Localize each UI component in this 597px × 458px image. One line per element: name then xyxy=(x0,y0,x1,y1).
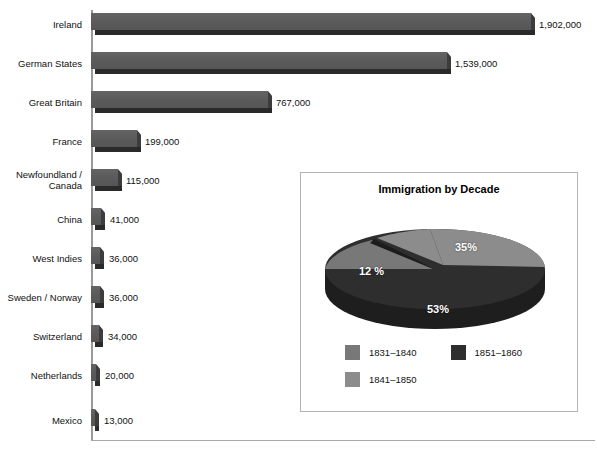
legend-swatch-icon xyxy=(345,345,360,360)
legend-label: 1841–1850 xyxy=(369,374,417,385)
bar-value-label: 20,000 xyxy=(105,370,134,381)
legend-row: 1841–1850 xyxy=(345,372,575,387)
bar-value-label: 115,000 xyxy=(126,175,160,186)
pie-chart-title: Immigration by Decade xyxy=(301,183,577,195)
pie-legend: 1831–1840 1851–1860 1841–1850 xyxy=(345,345,575,399)
bar-shadow xyxy=(95,381,100,386)
legend-label: 1831–1840 xyxy=(369,347,417,358)
bar-row: German States 1,539,000 xyxy=(0,48,597,78)
bar-category-label: China xyxy=(0,214,82,225)
legend-swatch-icon xyxy=(345,372,360,387)
bar-shadow xyxy=(95,186,122,191)
bar-shadow xyxy=(95,426,99,431)
bar-graphic[interactable] xyxy=(91,364,96,386)
bar-shadow xyxy=(95,225,105,230)
bar-face xyxy=(91,247,100,264)
bar-category-label: Newfoundland / Canada xyxy=(0,169,82,191)
bar-face xyxy=(91,208,101,225)
bar-category-label: German States xyxy=(0,58,82,69)
bar-value-label: 1,539,000 xyxy=(455,58,497,69)
bar-value-label: 767,000 xyxy=(276,97,310,108)
legend-item-1831-1840[interactable]: 1831–1840 xyxy=(345,345,417,360)
bar-face xyxy=(91,13,531,30)
bar-value-label: 1,902,000 xyxy=(539,19,581,30)
bar-graphic[interactable] xyxy=(91,130,137,152)
bar-value-label: 36,000 xyxy=(109,292,138,303)
bar-face xyxy=(91,130,137,147)
pie-slice-label-53: 53% xyxy=(427,303,449,315)
bar-value-label: 13,000 xyxy=(104,415,133,426)
bar-category-label-line1: Newfoundland / xyxy=(16,169,82,180)
pie-chart-graphic[interactable]: 35% 12 % 53% xyxy=(317,207,563,337)
bar-value-label: 199,000 xyxy=(145,136,179,147)
bar-graphic[interactable] xyxy=(91,286,100,308)
bar-row: France 199,000 xyxy=(0,126,597,156)
bar-shadow xyxy=(95,303,104,308)
bar-graphic[interactable] xyxy=(91,409,95,431)
bar-shadow xyxy=(95,30,535,35)
legend-item-1841-1850[interactable]: 1841–1850 xyxy=(345,372,417,387)
bar-category-label-line2: Canada xyxy=(49,180,82,191)
x-axis-line xyxy=(91,440,595,442)
bar-category-label: Switzerland xyxy=(0,331,82,342)
bar-category-label: Great Britain xyxy=(0,97,82,108)
pie-chart-inset: Immigration by Decade xyxy=(300,172,578,412)
bar-category-label: West Indies xyxy=(0,253,82,264)
bar-graphic[interactable] xyxy=(91,247,100,269)
bar-shadow xyxy=(95,147,141,152)
bar-face xyxy=(91,169,118,186)
bar-graphic[interactable] xyxy=(91,91,268,113)
bar-category-label: Ireland xyxy=(0,19,82,30)
pie-slice-label-35: 35% xyxy=(455,241,477,253)
bar-face xyxy=(91,286,100,303)
legend-item-1851-1860[interactable]: 1851–1860 xyxy=(451,345,523,360)
bar-category-label: France xyxy=(0,136,82,147)
bar-value-label: 41,000 xyxy=(110,214,139,225)
legend-label: 1851–1860 xyxy=(475,347,523,358)
bar-face xyxy=(91,91,268,108)
legend-swatch-icon xyxy=(451,345,466,360)
bar-shadow xyxy=(95,264,104,269)
pie-svg xyxy=(317,207,563,337)
bar-graphic[interactable] xyxy=(91,208,101,230)
bar-face xyxy=(91,325,99,342)
bar-row: Great Britain 767,000 xyxy=(0,87,597,117)
bar-shadow xyxy=(95,108,272,113)
immigration-figure: Ireland 1,902,000 German States 1,539,00… xyxy=(0,0,597,458)
bar-category-label: Netherlands xyxy=(0,370,82,381)
bar-category-label: Mexico xyxy=(0,415,82,426)
bar-graphic[interactable] xyxy=(91,13,531,35)
legend-row: 1831–1840 1851–1860 xyxy=(345,345,575,360)
bar-graphic[interactable] xyxy=(91,169,118,191)
bar-row: Ireland 1,902,000 xyxy=(0,9,597,39)
bar-shadow xyxy=(95,342,103,347)
bar-value-label: 36,000 xyxy=(109,253,138,264)
pie-slice-label-12: 12 % xyxy=(359,265,384,277)
bar-shadow xyxy=(95,69,451,74)
bar-category-label: Sweden / Norway xyxy=(0,292,82,303)
bar-graphic[interactable] xyxy=(91,52,447,74)
bar-graphic[interactable] xyxy=(91,325,99,347)
bar-face xyxy=(91,52,447,69)
bar-value-label: 34,000 xyxy=(108,331,137,342)
